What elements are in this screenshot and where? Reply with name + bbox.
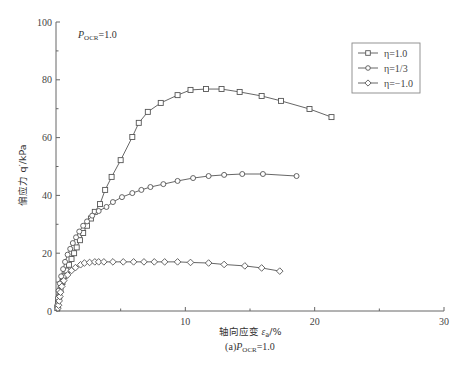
legend: η=1.0η=1/3η=−1.0 <box>352 43 420 93</box>
square-marker-icon <box>366 51 371 56</box>
diamond-marker <box>276 268 283 275</box>
diamond-marker <box>141 259 148 266</box>
y-axis-title: 偏应力 q′/kPa <box>17 144 28 205</box>
square-marker <box>136 120 141 125</box>
series-line <box>57 174 296 305</box>
circle-marker <box>90 213 95 218</box>
square-marker <box>279 98 284 103</box>
series-square <box>55 87 334 311</box>
circle-marker <box>130 191 135 196</box>
circle-marker <box>96 209 101 214</box>
legend-label: η=1.0 <box>384 48 407 59</box>
y-tick-label: 60 <box>42 132 52 143</box>
square-marker <box>188 87 193 92</box>
diamond-marker <box>258 265 265 272</box>
circle-marker <box>61 267 66 272</box>
circle-marker <box>110 200 115 205</box>
square-marker <box>329 115 334 120</box>
circle-marker <box>104 204 109 209</box>
x-tick-label: 20 <box>310 316 320 327</box>
legend-label: η=−1.0 <box>384 78 413 89</box>
circle-marker <box>240 172 245 177</box>
square-marker <box>118 158 123 163</box>
diamond-marker <box>242 263 249 270</box>
square-marker <box>259 93 264 98</box>
pocr-annotation: POCR=1.0 <box>77 29 117 42</box>
square-marker <box>307 106 312 111</box>
x-tick-label: 10 <box>180 316 190 327</box>
circle-marker <box>119 195 124 200</box>
circle-marker <box>222 172 227 177</box>
square-marker <box>145 109 150 114</box>
circle-marker <box>77 229 82 234</box>
circle-marker <box>294 174 299 179</box>
diamond-marker <box>221 261 228 268</box>
square-marker <box>204 87 209 92</box>
square-marker <box>72 251 77 256</box>
series-circle <box>55 172 299 308</box>
square-marker <box>74 245 79 250</box>
square-marker <box>237 89 242 94</box>
y-tick-label: 20 <box>42 248 52 259</box>
square-marker <box>109 174 114 179</box>
diamond-marker <box>130 259 137 266</box>
diamond-marker <box>110 259 117 266</box>
square-marker <box>97 202 102 207</box>
circle-marker <box>70 241 75 246</box>
series-diamond <box>55 259 283 312</box>
diamond-marker <box>174 259 181 266</box>
legend-label: η=1/3 <box>384 63 408 74</box>
diamond-marker <box>205 260 212 267</box>
circle-marker <box>68 246 73 251</box>
square-marker <box>158 100 163 105</box>
y-tick-label: 0 <box>47 306 52 317</box>
x-tick-label: 30 <box>439 316 449 327</box>
diamond-marker <box>120 259 127 266</box>
circle-marker <box>161 182 166 187</box>
y-tick-label: 80 <box>42 74 52 85</box>
y-tick-label: 100 <box>37 17 52 28</box>
circle-marker <box>260 172 265 177</box>
circle-marker <box>191 176 196 181</box>
diamond-marker <box>187 259 194 266</box>
square-marker <box>219 87 224 92</box>
square-marker <box>175 93 180 98</box>
diamond-marker <box>161 259 168 266</box>
y-tick-label: 40 <box>42 190 52 201</box>
diamond-marker <box>101 259 108 266</box>
circle-marker <box>65 252 70 257</box>
strain-stress-chart: 020406080100102030 η=1.0η=1/3η=−1.0 POCR… <box>0 0 463 374</box>
circle-marker <box>63 259 68 264</box>
data-series <box>55 87 334 312</box>
series-line <box>58 262 280 308</box>
square-marker <box>69 256 74 261</box>
circle-marker <box>206 174 211 179</box>
square-marker <box>103 187 108 192</box>
figure-caption: (a)POCR=1.0 <box>225 341 275 354</box>
circle-marker <box>81 223 86 228</box>
circle-marker <box>139 187 144 192</box>
x-axis-title: 轴向应变 εa/% <box>219 326 282 339</box>
circle-marker <box>175 178 180 183</box>
diamond-marker <box>151 259 158 266</box>
series-line <box>57 89 331 308</box>
square-marker <box>130 135 135 140</box>
circle-marker-icon <box>366 66 371 71</box>
circle-marker <box>74 235 79 240</box>
circle-marker <box>148 185 153 190</box>
circle-marker <box>85 219 90 224</box>
